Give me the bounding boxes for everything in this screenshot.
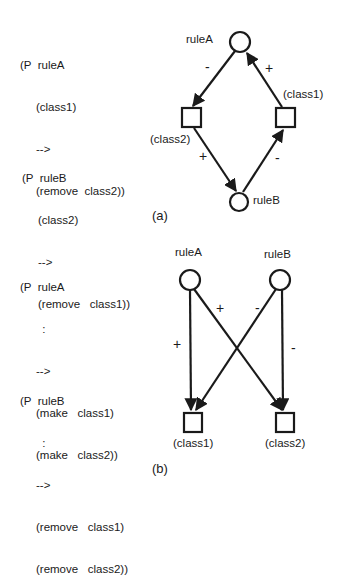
rule-b-label: ruleB	[253, 194, 280, 206]
class1-label: (class1)	[283, 88, 323, 100]
class2-node	[182, 108, 201, 127]
edge-sign: -	[291, 340, 296, 356]
code-line: (remove class1)	[20, 520, 128, 534]
rule-b-node	[230, 193, 248, 211]
caption-a: (a)	[152, 208, 168, 223]
edge-sign: +	[173, 336, 181, 352]
edge-sign: -	[255, 300, 260, 316]
class1-node	[276, 108, 295, 127]
edge-ruleb-class2	[282, 290, 283, 410]
edge-sign: +	[199, 148, 207, 164]
class2-label: (class2)	[265, 437, 305, 449]
rule-a-node	[230, 32, 250, 52]
rule-a-node	[180, 270, 200, 290]
class1-label: (class1)	[173, 437, 213, 449]
rule-b-label: ruleB	[264, 248, 291, 260]
edge-sign: -	[205, 59, 210, 75]
class2-label: (class2)	[150, 133, 190, 145]
code-line: (remove class2))	[20, 562, 128, 576]
edge-sign: +	[265, 60, 273, 76]
rule-b-node	[270, 270, 290, 290]
rule-a-label: ruleA	[175, 246, 202, 258]
caption-b: (b)	[152, 461, 168, 476]
rule-a-label: ruleA	[186, 33, 213, 45]
diagram-b	[180, 270, 294, 432]
diagram-a	[182, 32, 295, 211]
class2-node	[276, 413, 294, 432]
edge-sign: +	[216, 300, 224, 316]
edge-rulea-class2	[193, 51, 235, 106]
edge-sign: -	[275, 150, 280, 166]
class1-node	[184, 413, 202, 432]
edge-rulea-class1	[190, 290, 191, 410]
